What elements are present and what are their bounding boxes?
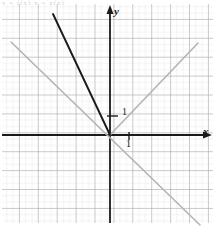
coordinate-plot bbox=[0, 0, 218, 232]
x-axis-tick-label-1: 1 bbox=[126, 139, 131, 149]
graph-figure: y = f(x) y = g(x) bbox=[0, 0, 218, 232]
x-axis-label: x bbox=[203, 126, 209, 137]
y-axis-tick-label-1: 1 bbox=[122, 107, 127, 117]
y-axis-label: y bbox=[114, 6, 119, 17]
grid-background bbox=[2, 4, 213, 223]
